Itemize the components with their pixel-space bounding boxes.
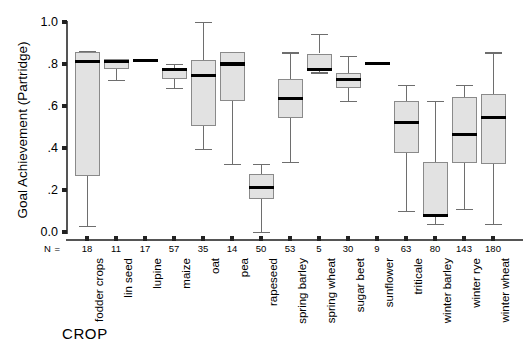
whisker-cap-lower	[166, 88, 183, 89]
y-axis-line	[66, 21, 68, 234]
median-line	[162, 68, 187, 71]
whisker-cap-lower	[79, 226, 96, 227]
whisker-lower	[232, 101, 233, 164]
box-iqr-rect	[75, 52, 100, 176]
median-line	[191, 74, 216, 77]
median-line	[452, 133, 477, 136]
category-label: spring wheat	[324, 258, 338, 354]
category-label: lupine	[150, 258, 164, 354]
box-iqr-rect	[481, 94, 506, 163]
whisker-upper	[348, 56, 349, 74]
whisker-cap-lower	[253, 232, 270, 233]
whisker-cap-lower	[311, 72, 328, 73]
n-value: 5	[304, 243, 334, 254]
whisker-lower	[87, 176, 88, 225]
x-tick-mark	[404, 236, 408, 241]
n-value: 9	[362, 243, 392, 254]
whisker-cap-lower	[427, 224, 444, 225]
whisker-upper	[493, 52, 494, 94]
x-tick-mark	[85, 236, 89, 241]
whisker-lower	[406, 153, 407, 211]
y-tick-label: .2	[14, 184, 58, 196]
x-tick-mark	[201, 236, 205, 241]
n-value: 17	[130, 243, 160, 254]
whisker-cap-upper	[340, 56, 357, 57]
whisker-lower	[435, 216, 436, 223]
n-value: 180	[478, 243, 508, 254]
median-line	[336, 78, 361, 81]
category-label: sugar beet	[353, 258, 367, 354]
y-axis-title: Goal Achievement (Partridge)	[11, 15, 35, 245]
category-label: pea	[237, 258, 251, 354]
median-line	[307, 68, 332, 71]
x-tick-mark	[259, 236, 263, 241]
median-line	[220, 62, 245, 65]
whisker-lower	[493, 164, 494, 224]
category-label: rapeseed	[266, 258, 280, 354]
whisker-cap-upper	[282, 52, 299, 53]
whisker-lower	[261, 199, 262, 232]
whisker-upper	[406, 85, 407, 101]
whisker-upper	[435, 101, 436, 162]
median-line	[133, 59, 158, 62]
median-line	[104, 60, 129, 63]
n-row-label: N =	[44, 243, 61, 254]
whisker-cap-upper	[166, 64, 183, 65]
whisker-lower	[348, 88, 349, 101]
box-iqr-rect	[452, 97, 477, 163]
x-tick-mark	[491, 236, 495, 241]
category-label: winter barley	[440, 258, 454, 354]
median-line	[481, 116, 506, 119]
n-value: 53	[275, 243, 305, 254]
category-label: lin seed	[121, 258, 135, 354]
n-value: 11	[101, 243, 131, 254]
y-tick-mark	[62, 146, 67, 150]
whisker-lower	[116, 69, 117, 80]
n-value: 18	[72, 243, 102, 254]
n-value: 50	[246, 243, 276, 254]
category-label: triticale	[411, 258, 425, 354]
whisker-cap-upper	[195, 22, 212, 23]
x-tick-mark	[114, 236, 118, 241]
y-tick-label: .4	[14, 142, 58, 154]
x-tick-mark	[288, 236, 292, 241]
n-value: 30	[333, 243, 363, 254]
whisker-cap-lower	[485, 224, 502, 225]
category-label: winter wheat	[498, 258, 512, 354]
boxplot-figure: Goal Achievement (Partridge) 0.0.2.4.6.8…	[0, 0, 531, 363]
x-tick-mark	[143, 236, 147, 241]
whisker-cap-upper	[253, 164, 270, 165]
y-tick-label: .8	[14, 58, 58, 70]
whisker-upper	[319, 34, 320, 54]
whisker-cap-upper	[311, 34, 328, 35]
whisker-cap-lower	[398, 211, 415, 212]
median-line	[423, 214, 448, 217]
x-tick-mark	[375, 236, 379, 241]
x-axis-line	[66, 239, 523, 241]
n-value: 63	[391, 243, 421, 254]
x-tick-mark	[433, 236, 437, 241]
whisker-lower	[290, 118, 291, 162]
y-tick-mark	[62, 104, 67, 108]
whisker-lower	[203, 126, 204, 149]
y-tick-label: .6	[14, 100, 58, 112]
y-tick-label: 0.0	[14, 226, 58, 238]
x-tick-mark	[317, 236, 321, 241]
x-axis-title: CROP	[62, 325, 108, 342]
n-value: 57	[159, 243, 189, 254]
category-label: spring barley	[295, 258, 309, 354]
whisker-upper	[464, 85, 465, 97]
n-value: 14	[217, 243, 247, 254]
whisker-cap-upper	[427, 101, 444, 102]
median-line	[278, 97, 303, 100]
whisker-cap-lower	[282, 162, 299, 163]
x-tick-mark	[462, 236, 466, 241]
n-value: 143	[449, 243, 479, 254]
whisker-upper	[290, 52, 291, 78]
y-tick-mark	[62, 62, 67, 66]
y-tick-mark	[62, 20, 67, 24]
n-value: 80	[420, 243, 450, 254]
median-line	[249, 186, 274, 189]
whisker-upper	[261, 164, 262, 175]
whisker-cap-lower	[340, 101, 357, 102]
